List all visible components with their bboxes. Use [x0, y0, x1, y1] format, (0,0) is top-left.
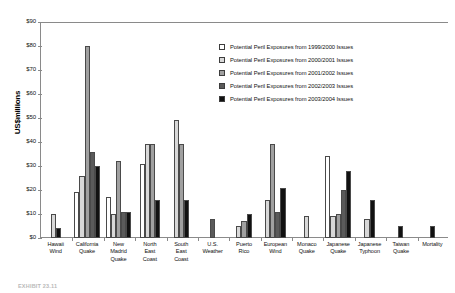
chart-legend: Potential Peril Exposures from 1999/2000…	[219, 40, 419, 105]
bar-group	[417, 22, 448, 238]
y-tick-mark	[38, 238, 42, 239]
legend-swatch	[219, 96, 225, 102]
y-tick-label: $0	[30, 234, 36, 240]
legend-item: Potential Peril Exposures from 2000/2001…	[219, 53, 419, 66]
legend-label: Potential Peril Exposures from 2001/2002…	[230, 70, 353, 76]
legend-swatch	[219, 44, 225, 50]
legend-label: Potential Peril Exposures from 2000/2001…	[230, 57, 353, 63]
y-tick-label: $80	[26, 42, 36, 48]
bar	[126, 212, 131, 238]
y-tick-label: $40	[26, 138, 36, 144]
bar	[398, 226, 403, 238]
legend-swatch	[219, 70, 225, 76]
y-tick-label: $90	[26, 18, 36, 24]
bar-chart: US$millions $90$80$70$60$50$40$30$20$10$…	[0, 0, 455, 293]
y-tick-label: $50	[26, 114, 36, 120]
bar	[247, 214, 252, 238]
bar-group	[166, 22, 197, 238]
bar-group	[134, 22, 165, 238]
y-tick-label: $70	[26, 66, 36, 72]
legend-item: Potential Peril Exposures from 2003/2004…	[219, 92, 419, 105]
bar	[184, 200, 189, 238]
y-axis-title: US$millions	[13, 73, 22, 153]
y-tick-label: $30	[26, 162, 36, 168]
legend-item: Potential Peril Exposures from 2002/2003…	[219, 79, 419, 92]
legend-label: Potential Peril Exposures from 2003/2004…	[230, 96, 353, 102]
y-tick-label: $60	[26, 90, 36, 96]
y-tick-label: $20	[26, 186, 36, 192]
bar	[430, 226, 435, 238]
bar-group	[71, 22, 102, 238]
x-axis-label: Mortality	[413, 241, 452, 248]
legend-label: Potential Peril Exposures from 2002/2003…	[230, 83, 353, 89]
bar-group	[103, 22, 134, 238]
legend-item: Potential Peril Exposures from 2001/2002…	[219, 66, 419, 79]
exhibit-caption: EXHIBIT 23.11	[18, 283, 57, 289]
bar	[155, 200, 160, 238]
bar	[210, 219, 215, 238]
legend-swatch	[219, 57, 225, 63]
bar	[370, 200, 375, 238]
bar	[95, 166, 100, 238]
y-tick-label: $10	[26, 210, 36, 216]
bar	[280, 188, 285, 238]
bar	[56, 228, 61, 238]
bar	[304, 216, 309, 238]
legend-swatch	[219, 83, 225, 89]
bar	[346, 171, 351, 238]
x-axis-labels: HawaiiWindCaliforniaQuakeNewMadridQuakeN…	[40, 241, 448, 289]
legend-item: Potential Peril Exposures from 1999/2000…	[219, 40, 419, 53]
legend-label: Potential Peril Exposures from 1999/2000…	[230, 44, 353, 50]
bar-group	[40, 22, 71, 238]
